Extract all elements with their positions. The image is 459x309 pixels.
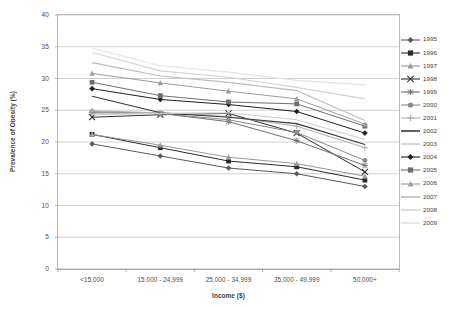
series-1995 (89, 141, 367, 189)
legend-swatch-icon-1996 (400, 48, 421, 58)
legend-swatch-icon-2000 (400, 100, 421, 110)
legend-label: 2003 (423, 141, 437, 147)
x-tick-3: 35,000 - 49,999 (261, 276, 333, 283)
legend-swatch-icon-2008 (400, 205, 421, 215)
x-tick-1: 15,000 - 24,999 (124, 276, 196, 283)
legend-label: 1995 (423, 36, 437, 42)
legend-label: 2009 (423, 220, 437, 226)
y-tick-0: 0 (19, 265, 49, 272)
y-tick-15: 15 (19, 170, 49, 177)
legend-label: 2008 (423, 207, 437, 213)
legend-item-2000[interactable]: 2000 (400, 98, 459, 111)
plot-svg (0, 0, 459, 309)
legend-swatch-icon-2005 (400, 165, 421, 175)
legend-swatch-icon-2004 (400, 152, 421, 162)
legend-item-2004[interactable]: 2004 (400, 151, 459, 164)
legend-item-2005[interactable]: 2005 (400, 164, 459, 177)
legend-swatch-icon-1997 (400, 61, 421, 71)
legend-swatch-icon-1999 (400, 87, 421, 97)
x-tick-2: 25,000 - 34,999 (193, 276, 265, 283)
legend-swatch-icon-2001 (400, 113, 421, 123)
y-tick-35: 35 (19, 43, 49, 50)
y-tick-25: 25 (19, 106, 49, 113)
legend-item-2007[interactable]: 2007 (400, 190, 459, 203)
legend-item-1995[interactable]: 1995 (400, 33, 459, 46)
legend-swatch-icon-2006 (400, 179, 421, 189)
y-tick-20: 20 (19, 138, 49, 145)
legend-swatch-icon-2002 (400, 126, 421, 136)
legend-label: 2005 (423, 167, 437, 173)
legend-swatch-icon-1995 (400, 35, 421, 45)
series-1997 (89, 131, 367, 178)
legend-label: 1999 (423, 89, 437, 95)
y-tick-30: 30 (19, 75, 49, 82)
legend-swatch-icon-2007 (400, 192, 421, 202)
y-tick-40: 40 (19, 11, 49, 18)
series-layer (89, 48, 368, 189)
y-tick-10: 10 (19, 202, 49, 209)
legend-swatch-icon-1998 (400, 74, 421, 84)
legend-label: 2004 (423, 154, 437, 160)
legend-label: 2007 (423, 194, 437, 200)
legend-item-2001[interactable]: 2001 (400, 112, 459, 125)
legend-swatch-icon-2003 (400, 139, 421, 149)
legend-item-2009[interactable]: 2009 (400, 216, 459, 229)
y-axis-title: Prevalence of Obesity (%) (9, 72, 16, 192)
x-tick-4: 50,000+ (329, 276, 401, 283)
legend-label: 1996 (423, 50, 437, 56)
tick-marks (55, 15, 399, 272)
legend-label: 2001 (423, 115, 437, 121)
legend-label: 2000 (423, 102, 437, 108)
legend-swatch-icon-2009 (400, 218, 421, 228)
obesity-income-line-chart: 0510152025303540 <15,00015,000 - 24,9992… (0, 0, 459, 309)
legend-label: 2006 (423, 180, 437, 186)
x-axis-title: Income ($) (57, 292, 400, 299)
legend-item-1999[interactable]: 1999 (400, 85, 459, 98)
legend-item-2002[interactable]: 2002 (400, 125, 459, 138)
legend-label: 1997 (423, 63, 437, 69)
legend-item-2008[interactable]: 2008 (400, 203, 459, 216)
legend-item-1998[interactable]: 1998 (400, 72, 459, 85)
legend-item-2003[interactable]: 2003 (400, 138, 459, 151)
x-tick-0: <15,000 (56, 276, 128, 283)
y-tick-5: 5 (19, 233, 49, 240)
legend-item-1996[interactable]: 1996 (400, 46, 459, 59)
legend-label: 2002 (423, 128, 437, 134)
legend-item-2006[interactable]: 2006 (400, 177, 459, 190)
legend-label: 1998 (423, 76, 437, 82)
legend: 1995199619971998199920002001200220032004… (400, 33, 459, 229)
legend-item-1997[interactable]: 1997 (400, 59, 459, 72)
